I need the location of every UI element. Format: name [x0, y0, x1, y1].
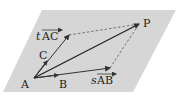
label-scalar-t: t — [36, 30, 41, 43]
label-point-c: C — [39, 49, 47, 62]
label-point-b: B — [59, 78, 67, 91]
label-point-p: P — [143, 17, 151, 30]
label-point-a: A — [20, 78, 30, 91]
label-vector-ac: AC — [41, 30, 58, 43]
label-vector-ab: AB — [96, 74, 113, 87]
vector-plane-diagram: A B C P t AC s AB — [0, 0, 179, 99]
